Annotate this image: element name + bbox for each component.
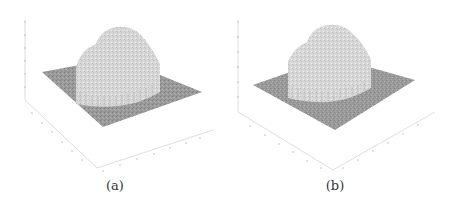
panel-a: (a) <box>0 0 225 208</box>
caption-a: (a) <box>95 178 135 193</box>
panel-b: (b) <box>225 0 450 208</box>
caption-b: (b) <box>315 178 355 193</box>
surface-plot-b <box>225 0 450 208</box>
surface-plot-a <box>0 0 225 208</box>
bump-surface <box>288 25 371 102</box>
bump-surface <box>76 27 160 107</box>
